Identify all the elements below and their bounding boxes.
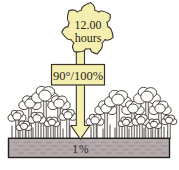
tree-canopy-lobe: [91, 117, 99, 124]
tree-canopy-lobe: [137, 117, 145, 124]
solar-energy-forest-diagram: 1% 90°/100% 12.00 hours: [0, 0, 179, 170]
forest: [8, 86, 177, 139]
angle-intensity-text: 90°/100%: [53, 69, 103, 83]
tree-canopy-lobe: [141, 91, 153, 102]
tree-canopy-lobe: [13, 113, 21, 120]
sun: 12.00 hours: [62, 3, 113, 54]
sunlight-down-arrow-icon: [71, 46, 90, 139]
tree-canopy-lobe: [39, 90, 51, 101]
diagram-canvas: 1% 90°/100% 12.00 hours: [0, 0, 179, 170]
tree-canopy-lobe: [150, 121, 157, 127]
tree-canopy-lobe: [112, 94, 124, 105]
tree-canopy-lobe: [155, 104, 165, 113]
sun-hours-unit: hours: [75, 31, 102, 45]
tree: [59, 109, 77, 139]
tree-canopy-lobe: [165, 117, 172, 123]
tree-canopy-lobe: [64, 112, 72, 119]
ground-percent-label: 1%: [72, 143, 89, 155]
tree-canopy-lobe: [33, 115, 41, 122]
tree-canopy-lobe: [128, 104, 138, 113]
ground: 1%: [9, 138, 170, 157]
tree: [161, 115, 177, 139]
tree-canopy-lobe: [122, 119, 129, 125]
tree-canopy-lobe: [20, 123, 27, 129]
angle-intensity-label: 90°/100%: [52, 65, 105, 86]
sun-hours-value: 12.00: [75, 18, 102, 32]
tree-canopy-lobe: [54, 99, 64, 108]
tree-canopy-lobe: [48, 119, 55, 125]
